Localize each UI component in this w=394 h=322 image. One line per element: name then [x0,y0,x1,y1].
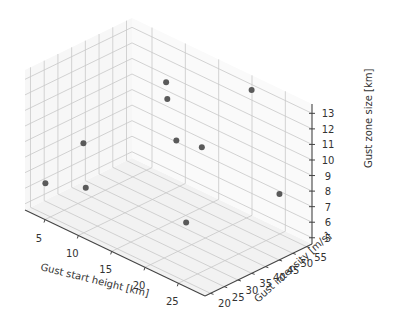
z-tick-label: 9 [325,171,331,182]
data-point [173,137,179,143]
x-tick-label: 15 [99,264,112,275]
scatter-3d-chart: 51015202520253035404550555678910111213 G… [0,0,394,322]
y-tick [279,260,282,261]
z-tick-label: 7 [325,202,331,213]
x-tick-label: 5 [36,233,42,244]
data-point [83,185,89,191]
y-tick [210,293,213,294]
z-tick-label: 8 [325,186,331,197]
z-tick-label: 11 [322,139,335,150]
z-axis-label: Gust zone size [km] [363,69,374,168]
y-tick [293,253,296,254]
x-tick [177,283,178,286]
y-tick [238,280,241,281]
y-tick [265,267,268,268]
x-tick-label: 25 [166,296,179,307]
data-point [42,180,48,186]
z-tick-label: 10 [322,155,335,166]
y-tick [252,273,255,274]
x-tick-label: 10 [66,248,79,259]
data-point [249,87,255,93]
x-tick [44,220,45,223]
z-tick-label: 13 [322,108,335,119]
z-tick-label: 6 [325,217,331,228]
x-tick [144,267,145,270]
y-tick-label: 20 [218,298,231,309]
data-point [80,140,86,146]
y-tick [224,287,227,288]
data-point [163,79,169,85]
y-tick-label: 25 [232,292,245,303]
z-tick-label: 12 [322,124,335,135]
x-tick [111,251,112,254]
data-point [183,219,189,225]
x-tick [77,235,78,238]
data-point [276,191,282,197]
data-point [199,144,205,150]
data-point [164,96,170,102]
